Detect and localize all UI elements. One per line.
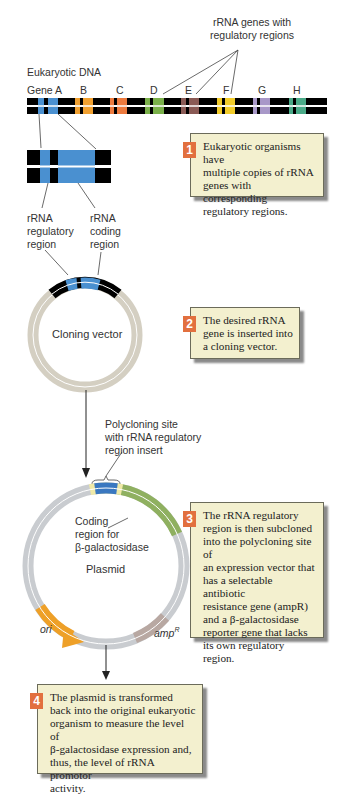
polycloning-site-label: Polycloning site with rRNA regulatory re… xyxy=(105,418,201,457)
step-4-box: 4 The plasmid is transformed back into t… xyxy=(37,684,203,774)
step-2-box: 2 The desired rRNA gene is inserted into… xyxy=(190,307,300,359)
regulatory-region-label: rRNA regulatory region xyxy=(27,212,74,251)
gene-b-label: B xyxy=(80,84,87,97)
gene-e-label: E xyxy=(185,84,192,97)
step-2-badge: 2 xyxy=(183,316,196,332)
rrna-genes-label: rRNA genes with regulatory regions xyxy=(210,16,294,42)
gene-g-label: G xyxy=(258,84,266,97)
amp-superscript: R xyxy=(174,626,179,633)
step-3-text: The rRNA regulatory region is then subcl… xyxy=(203,509,317,665)
gene-a-label: Gene A xyxy=(27,84,62,97)
plasmid-label: Plasmid xyxy=(86,563,125,576)
step-1-text: Eukaryotic organisms have multiple copie… xyxy=(203,140,317,218)
step-2-text: The desired rRNA gene is inserted into a… xyxy=(203,314,293,353)
step-4-text: The plasmid is transformed back into the… xyxy=(50,691,196,795)
step-3-box: 3 The rRNA regulatory region is then sub… xyxy=(190,502,324,638)
step-1-badge: 1 xyxy=(183,142,196,158)
step-3-badge: 3 xyxy=(183,511,196,527)
gene-c-label: C xyxy=(116,84,124,97)
coding-region-label: rRNA coding region xyxy=(90,212,121,251)
cloning-vector-label: Cloning vector xyxy=(52,328,122,341)
ori-label: ori xyxy=(40,623,52,636)
gene-h-label: H xyxy=(293,84,301,97)
gene-d-label: D xyxy=(150,84,158,97)
gene-f-label: F xyxy=(223,84,229,97)
eukaryotic-dna-label: Eukaryotic DNA xyxy=(27,66,101,79)
enlarged-gene-a xyxy=(27,150,111,183)
amp-text: amp xyxy=(154,627,174,639)
coding-beta-gal-label: Coding region for β-galactosidase xyxy=(75,515,149,554)
step-4-badge: 4 xyxy=(30,693,43,709)
step-1-box: 1 Eukaryotic organisms have multiple cop… xyxy=(190,133,324,197)
amp-label: ampR xyxy=(154,623,180,640)
eukaryotic-dna-strip xyxy=(27,98,327,114)
